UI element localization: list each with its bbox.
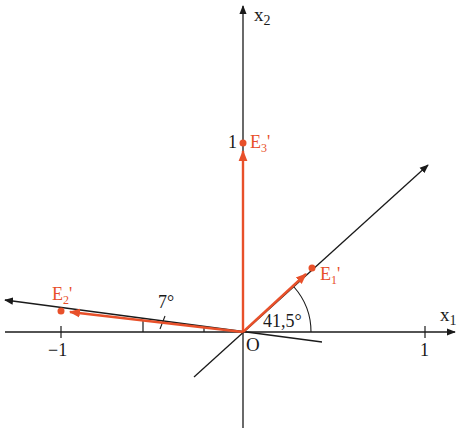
e2-endpoint [58,308,65,315]
e2-label-prime: ' [69,284,72,304]
x2-label-main: x [254,4,264,25]
e2-label-main: E [52,284,63,304]
x2-label-sub: 2 [264,13,271,28]
x1-axis-label: x1 [440,304,457,329]
e3-label-main: E [250,132,261,152]
diagram-canvas [0,0,465,437]
tick-label-x1-neg: −1 [48,340,67,361]
tick-label-x2-pos: 1 [228,132,237,153]
e2-label: E2' [52,284,72,308]
x1-label-sub: 1 [450,313,457,328]
e3-label: E3' [250,132,270,156]
e1-label: E1' [320,264,340,288]
origin-label: O [246,334,260,356]
x1-label-main: x [440,304,450,325]
x2-axis-label: x2 [254,4,271,29]
e1-label-prime: ' [337,264,340,284]
e3-endpoint [240,140,247,147]
angle-label-41-5: 41,5° [263,311,302,332]
tick-label-x1-pos: 1 [420,340,429,361]
e3-label-prime: ' [267,132,270,152]
e1-endpoint [309,265,316,272]
vector-e3 [240,140,247,333]
angle-label-7: 7° [158,292,174,313]
e1-label-main: E [320,264,331,284]
